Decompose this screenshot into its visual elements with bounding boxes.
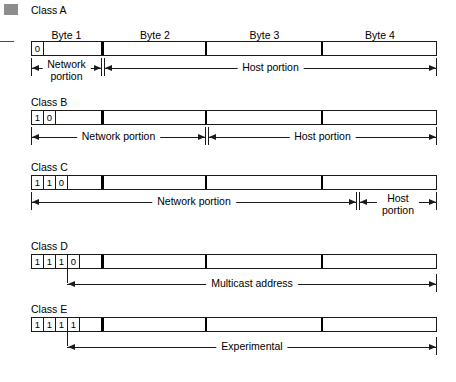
class-b-byte2-boundary <box>205 111 207 124</box>
class-d-byte2-boundary <box>205 255 207 268</box>
class-c-title: Class C <box>31 161 68 173</box>
class-e-bit-2: 1 <box>56 318 68 331</box>
byte-label-2: Byte 2 <box>104 29 206 41</box>
class-b-byte1-boundary <box>101 111 104 124</box>
class-b-network-label: Network portion <box>77 130 161 143</box>
span-arrow-left <box>32 65 39 71</box>
class-a-network-span: Networkportion <box>31 62 102 76</box>
span-arrow-right <box>429 65 436 71</box>
class-c-byte3-boundary <box>321 176 323 189</box>
span-tick-right <box>205 127 206 145</box>
span-arrow-left <box>105 65 112 71</box>
span-tick-right <box>436 274 437 292</box>
class-e-byte3-boundary <box>321 318 323 331</box>
class-d-bit-2: 1 <box>56 255 68 268</box>
span-arrow-right <box>429 199 436 205</box>
span-arrow-left <box>360 199 367 205</box>
class-e-byte2-boundary <box>205 318 207 331</box>
class-b-title: Class B <box>31 96 67 108</box>
class-d-bit-1: 1 <box>44 255 56 268</box>
span-arrow-left <box>32 134 39 140</box>
class-b-byte3-boundary <box>321 111 323 124</box>
span-arrow-right <box>429 344 436 350</box>
class-e-bit-1: 1 <box>44 318 56 331</box>
class-d-byte3-boundary <box>321 255 323 268</box>
span-tick-right <box>101 58 102 76</box>
class-c-address-bar: 1 1 0 <box>31 175 437 190</box>
class-d-address-bar: 1 1 1 0 <box>31 254 437 269</box>
class-b-network-span: Network portion <box>31 131 206 145</box>
class-d-byte1-boundary <box>101 255 104 268</box>
span-tick-right <box>436 58 437 76</box>
span-arrow-left <box>32 199 39 205</box>
class-a-byte1-boundary <box>101 42 104 55</box>
class-d-multicast-span: Multicast address <box>67 278 437 292</box>
class-b-host-label: Host portion <box>289 130 356 143</box>
class-b-bit-0: 1 <box>32 111 44 124</box>
class-b-address-bar: 1 0 <box>31 110 437 125</box>
byte-label-3: Byte 3 <box>207 29 322 41</box>
span-tick-right <box>436 192 437 210</box>
byte-label-1: Byte 1 <box>31 29 102 41</box>
class-d-multicast-label: Multicast address <box>206 277 298 290</box>
class-a-byte2-boundary <box>205 42 207 55</box>
class-d-bit-3: 0 <box>68 255 80 268</box>
class-c-network-label: Network portion <box>152 195 236 208</box>
span-arrow-left <box>68 281 75 287</box>
class-c-bit-0: 1 <box>32 176 44 189</box>
span-tick-right <box>436 337 437 355</box>
class-b-host-span: Host portion <box>208 131 437 145</box>
class-c-byte1-boundary <box>101 176 104 189</box>
class-c-bit-1: 1 <box>44 176 56 189</box>
span-arrow-right <box>198 134 205 140</box>
span-arrow-right <box>94 65 101 71</box>
class-a-byte3-boundary <box>321 42 323 55</box>
class-e-address-bar: 1 1 1 1 <box>31 317 437 332</box>
class-c-byte2-boundary <box>205 176 207 189</box>
class-a-host-span: Host portion <box>104 62 437 76</box>
span-arrow-left <box>209 134 216 140</box>
class-e-bit-3: 1 <box>68 318 80 331</box>
span-arrow-right <box>349 199 356 205</box>
class-a-bit-0: 0 <box>32 42 44 55</box>
byte-label-4: Byte 4 <box>323 29 437 41</box>
class-a-host-label: Host portion <box>237 61 304 74</box>
span-arrow-right <box>429 281 436 287</box>
class-a-title: Class A <box>31 4 67 16</box>
span-tick-right <box>436 127 437 145</box>
class-d-bit-0: 1 <box>32 255 44 268</box>
class-c-host-span: Hostportion <box>359 196 437 210</box>
class-e-experimental-span: Experimental <box>67 341 437 355</box>
class-c-network-span: Network portion <box>31 196 357 210</box>
class-e-bit-0: 1 <box>32 318 44 331</box>
class-d-title: Class D <box>31 240 68 252</box>
class-a-address-bar: 0 <box>31 41 437 56</box>
class-e-experimental-label: Experimental <box>216 340 287 353</box>
class-b-bit-1: 0 <box>44 111 56 124</box>
class-c-host-label: Hostportion <box>377 193 419 216</box>
class-a-network-label: Networkportion <box>42 59 91 82</box>
class-e-title: Class E <box>31 303 67 315</box>
gray-square-marker <box>4 4 18 15</box>
class-c-bit-2: 0 <box>56 176 68 189</box>
span-arrow-left <box>68 344 75 350</box>
span-tick-right <box>356 192 357 210</box>
left-margin-dash <box>0 41 14 42</box>
class-e-byte1-boundary <box>101 318 104 331</box>
span-arrow-right <box>429 134 436 140</box>
